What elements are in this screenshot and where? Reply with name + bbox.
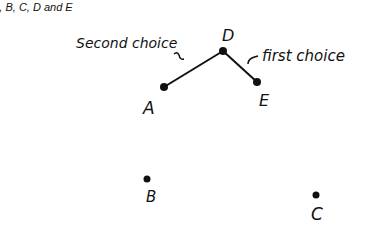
annotation-first-choice: first choice [262, 47, 345, 65]
point-b [144, 176, 151, 183]
label-c: C [311, 204, 323, 224]
label-a: A [142, 98, 155, 118]
edge-d-a [164, 51, 223, 87]
point-d [219, 47, 227, 55]
label-d: D [222, 26, 234, 45]
graph-diagram: A B C D E Second choice first choice [0, 0, 373, 225]
tilde-second-choice-icon [174, 53, 184, 59]
label-e: E [259, 91, 270, 110]
point-a [160, 83, 168, 91]
annotation-second-choice: Second choice [76, 35, 177, 51]
point-c [313, 192, 320, 199]
tilde-first-choice-icon [248, 56, 258, 64]
point-e [253, 78, 261, 86]
label-b: B [146, 188, 156, 206]
edge-d-e [223, 51, 257, 82]
